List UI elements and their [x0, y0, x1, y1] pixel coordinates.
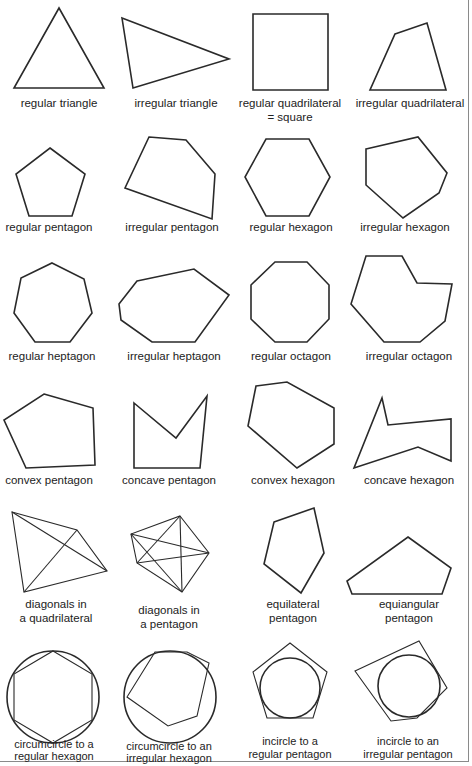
label-circumcircle-regular-hexagon: circumcircle to a regular hexagon [0, 738, 113, 762]
irregular-hexagon-shape [366, 137, 447, 218]
label-irregular-octagon: irregular octagon [350, 349, 468, 363]
regular-pentagon-shape [16, 148, 85, 216]
label-regular-heptagon: regular heptagon [0, 349, 111, 363]
regular-octagon-shape [251, 262, 329, 342]
label-regular-pentagon: regular pentagon [0, 220, 108, 234]
label-incircle-regular-pentagon: incircle to a regular pentagon [231, 735, 349, 761]
irregular-octagon-shape [351, 256, 452, 342]
irregular-triangle-shape [122, 18, 229, 88]
regular-hexagon-shape [245, 139, 330, 216]
label-circumcircle-irregular-hexagon: circumcircle to an irregular hexagon [110, 740, 228, 764]
regular-heptagon-shape [14, 263, 92, 342]
label-equilateral-pentagon: equilateral pentagon [234, 597, 352, 625]
label-regular-quadrilateral: regular quadrilateral = square [230, 96, 350, 124]
diagonals-quadrilateral-shape [12, 512, 107, 592]
diagonals-pentagon-shape [131, 516, 209, 592]
label-convex-hexagon: convex hexagon [234, 473, 352, 487]
label-regular-triangle: regular triangle [0, 96, 118, 110]
label-irregular-pentagon: irregular pentagon [113, 220, 231, 234]
concave-hexagon-shape [354, 398, 451, 468]
convex-pentagon-shape [4, 394, 95, 468]
label-convex-pentagon: convex pentagon [0, 473, 108, 487]
label-irregular-quadrilateral: irregular quadrilateral [347, 96, 472, 110]
circumcircle-irregular-hexagon-shape [124, 651, 216, 743]
label-regular-hexagon: regular hexagon [232, 220, 350, 234]
irregular-quadrilateral-shape [370, 23, 446, 90]
label-diagonals-pentagon: diagonals in a pentagon [110, 603, 228, 631]
label-equiangular-pentagon: equiangular pentagon [350, 597, 468, 625]
square-shape [253, 14, 328, 90]
label-concave-hexagon: concave hexagon [350, 473, 468, 487]
label-regular-octagon: regular octagon [232, 349, 350, 363]
regular-triangle-shape [14, 8, 104, 88]
equilateral-pentagon-shape [264, 508, 324, 593]
label-incircle-irregular-pentagon: incircle to an irregular pentagon [349, 735, 467, 761]
label-diagonals-quadrilateral: diagonals in a quadrilateral [0, 597, 115, 625]
label-irregular-heptagon: irregular heptagon [115, 349, 233, 363]
irregular-pentagon-shape [125, 137, 215, 219]
concave-pentagon-shape [134, 396, 207, 468]
equiangular-pentagon-shape [347, 537, 451, 594]
convex-hexagon-shape [248, 382, 334, 468]
incircle-irregular-pentagon-shape [355, 641, 447, 721]
label-concave-pentagon: concave pentagon [110, 473, 228, 487]
circumcircle-regular-hexagon-shape [7, 651, 99, 743]
irregular-heptagon-shape [119, 269, 229, 342]
incircle-regular-pentagon-shape [253, 643, 327, 718]
label-irregular-hexagon: irregular hexagon [346, 220, 464, 234]
label-irregular-triangle: irregular triangle [117, 96, 235, 110]
